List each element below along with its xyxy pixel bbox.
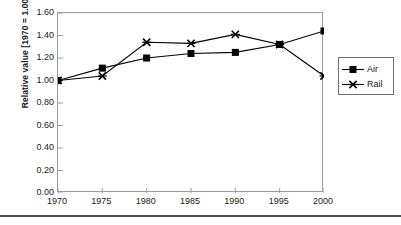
chart-legend: AirRail (338, 57, 394, 95)
plot-area (57, 12, 323, 192)
x-tick-label: 1990 (214, 196, 254, 206)
data-point-marker (187, 40, 196, 47)
legend-item-air: Air (341, 61, 390, 76)
data-point-marker (232, 49, 238, 55)
data-point-marker (350, 67, 356, 73)
x-tick-label: 2000 (303, 196, 343, 206)
y-tick-label: 1.20 (24, 53, 54, 62)
y-tick-label: 1.40 (24, 31, 54, 40)
data-point-marker (99, 65, 105, 71)
x-tick-label: 1975 (81, 196, 121, 206)
x-tick-label: 1985 (170, 196, 210, 206)
series-rail (58, 31, 324, 84)
data-point-marker (98, 72, 107, 79)
data-point-marker (321, 28, 324, 34)
data-point-marker (349, 81, 358, 88)
series-line (58, 34, 324, 80)
legend-cross-marker-icon (341, 77, 365, 90)
y-tick-label: 0.40 (24, 143, 54, 152)
x-tick-label: 1995 (259, 196, 299, 206)
legend-square-marker-icon (341, 62, 365, 75)
data-point-marker (142, 39, 151, 46)
y-tick-label: 1.00 (24, 76, 54, 85)
caption-divider (0, 215, 401, 217)
chart-figure: Relative value [1970 = 1.00] 1.601.401.2… (0, 0, 401, 225)
y-axis-tick-labels: 1.601.401.201.000.800.600.400.200.00 (22, 0, 54, 200)
y-tick-label: 0.20 (24, 166, 54, 175)
x-axis-tick-labels: 1970197519801985199019952000 (0, 196, 401, 210)
legend-item-rail: Rail (341, 76, 390, 91)
plot-svg (58, 13, 324, 193)
x-tick-label: 1980 (126, 196, 166, 206)
y-tick-label: 0.60 (24, 121, 54, 130)
data-point-marker (231, 31, 240, 38)
y-tick-label: 1.60 (24, 8, 54, 17)
x-tick-label: 1970 (37, 196, 77, 206)
data-point-marker (144, 55, 150, 61)
legend-label: Air (365, 64, 378, 74)
data-point-marker (188, 51, 194, 57)
y-tick-label: 0.80 (24, 98, 54, 107)
caption-text (4, 218, 401, 225)
legend-label: Rail (365, 79, 383, 89)
series-air (58, 28, 324, 84)
